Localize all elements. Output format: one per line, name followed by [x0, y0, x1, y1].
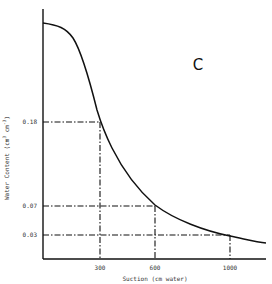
y-tick-label: 0.03	[23, 231, 38, 238]
x-axis-title: Suction (cm water)	[122, 275, 187, 282]
water-retention-chart: 0.18 0.07 0.03 300 600 1000 Suction (cm …	[0, 0, 272, 284]
y-tick-label: 0.07	[23, 202, 38, 209]
panel-label: C	[193, 56, 203, 74]
y-tick-label: 0.18	[23, 118, 38, 125]
x-tick-label: 1000	[223, 264, 238, 271]
reference-lines	[43, 122, 230, 259]
x-tick-label: 300	[95, 264, 106, 271]
y-axis-title: Water Content (cm3 cm-3)	[2, 116, 10, 200]
x-tick-label: 600	[150, 264, 161, 271]
